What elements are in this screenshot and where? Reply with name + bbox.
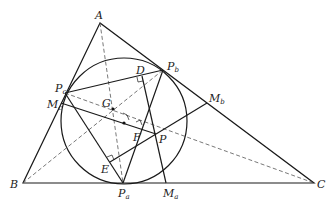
- label-p: P: [158, 133, 167, 146]
- label-pb: Pb: [166, 60, 179, 74]
- point-dot: [122, 121, 125, 124]
- right-angle-g-foot: [123, 113, 129, 120]
- segment-pc-pa: [65, 93, 123, 183]
- label-b: B: [9, 178, 18, 191]
- segment-pc-pb: [65, 70, 163, 93]
- label-a: A: [94, 9, 103, 22]
- incircle: [61, 58, 187, 184]
- geometry-diagram: A B C Pa Pb Pc Ma Mb Mc G D E F P: [0, 0, 336, 208]
- label-g: G: [102, 97, 111, 110]
- label-e: E: [100, 163, 109, 176]
- label-ma: Ma: [162, 187, 178, 201]
- triangle-abc: [23, 23, 314, 183]
- centroid-g-dot: [111, 107, 114, 110]
- label-d: D: [135, 64, 145, 77]
- label-pc: Pc: [54, 82, 66, 96]
- label-pa: Pa: [117, 187, 130, 201]
- label-c: C: [317, 178, 326, 191]
- label-mb: Mb: [208, 92, 225, 106]
- label-mc: Mc: [46, 98, 62, 112]
- label-f: F: [132, 131, 141, 144]
- diagram-canvas: A B C Pa Pb Pc Ma Mb Mc G D E F P: [0, 0, 336, 208]
